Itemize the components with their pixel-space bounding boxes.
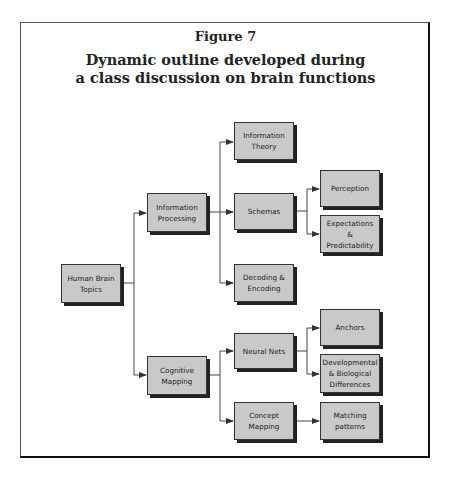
connector-lines [0,0,451,481]
node-neural-nets: Neural Nets [234,333,294,369]
node-information-processing: Information Processing [147,193,207,232]
node-cognitive-mapping: Cognitive Mapping [147,356,207,395]
node-perception: Perception [320,170,380,207]
node-concept-mapping: Concept Mapping [234,402,294,440]
node-decoding-encoding: Decoding & Encoding [234,264,294,302]
node-developmental-biological-differences: Developmental & Biological Differences [320,354,380,393]
node-matching-patterns: Matching patterns [320,402,380,440]
node-human-brain-topics: Human Brain Topics [61,264,121,303]
node-anchors: Anchors [320,309,380,346]
node-schemas: Schemas [234,193,294,230]
node-expectations-predictability: Expectations & Predictability [320,215,380,253]
node-information-theory: Information Theory [234,122,294,160]
